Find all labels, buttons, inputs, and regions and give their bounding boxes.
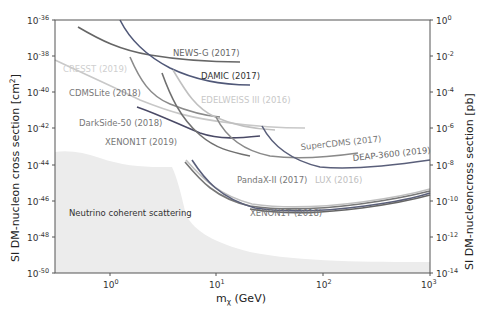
x-tick-label: 101 (209, 278, 225, 290)
dark-matter-exclusion-chart: 10-36 10-38 10-40 10-42 10-44 10-46 10-4… (0, 0, 485, 312)
y-right-tick-label: 10-14 (436, 267, 458, 279)
y-tick-label: 10-48 (27, 231, 49, 243)
y-left-axis-label: SI DM-nucleon cross section [cm2] (8, 74, 22, 262)
y-left-ticks: 10-36 10-38 10-40 10-42 10-44 10-46 10-4… (27, 14, 55, 279)
y-tick-label: 10-50 (27, 267, 49, 279)
label-edelweiss: EDELWEISS III (2016) (201, 95, 291, 105)
x-axis-label: mχ (GeV) (216, 292, 266, 306)
label-pandax: PandaX-II (2017) (237, 175, 307, 185)
y-right-tick-label: 10-6 (436, 122, 454, 134)
y-right-tick-label: 10-8 (436, 159, 454, 171)
curve-cdmslite (130, 57, 220, 117)
y-right-tick-label: 10-12 (436, 231, 458, 243)
label-news-g: NEWS-G (2017) (173, 48, 239, 58)
x-tick-label: 100 (103, 278, 119, 290)
y-right-tick-label: 100 (436, 14, 452, 26)
y-right-tick-label: 10-4 (436, 86, 454, 98)
curve-lux (186, 160, 430, 207)
label-cresst: CRESST (2019) (63, 64, 127, 74)
y-tick-label: 10-38 (27, 50, 49, 62)
y-tick-label: 10-36 (27, 14, 49, 26)
label-xenon1t-2019: XENON1T (2019) (105, 137, 177, 147)
label-supercdms: SuperCDMS (2017) (300, 134, 382, 152)
label-deap: DEAP-3600 (2019) (352, 145, 431, 163)
y-tick-label: 10-44 (27, 159, 49, 171)
y-right-tick-label: 10-10 (436, 195, 458, 207)
x-tick-label: 102 (316, 278, 332, 290)
label-darkside: DarkSide-50 (2018) (79, 118, 162, 128)
y-tick-label: 10-42 (27, 122, 49, 134)
x-ticks: 100 101 102 103 (103, 273, 437, 290)
x-tick-label: 103 (421, 278, 437, 290)
y-right-ticks: 100 10-2 10-4 10-6 10-8 10-10 10-12 10-1… (430, 14, 458, 279)
label-neutrino-floor: Neutrino coherent scattering (69, 208, 192, 218)
y-tick-label: 10-40 (27, 86, 49, 98)
y-tick-label: 10-46 (27, 195, 49, 207)
label-damic: DAMIC (2017) (201, 71, 260, 81)
y-right-axis-label: SI DM-nucleoncross section [pb] (463, 93, 476, 270)
y-right-tick-label: 10-2 (436, 50, 454, 62)
label-cdmslite: CDMSLite (2018) (69, 88, 141, 98)
label-lux: LUX (2016) (315, 175, 362, 185)
label-xenon1t-2018: XENON1T (2018) (250, 208, 322, 218)
